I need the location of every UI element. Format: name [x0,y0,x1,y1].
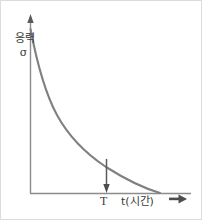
figure-canvas [1,1,202,220]
x-axis-arrowhead-icon [179,195,188,204]
t-marker-arrowhead-icon [103,184,109,193]
stress-relaxation-curve [31,29,161,193]
x-axis-arrow-shaft [169,198,180,201]
y-axis-arrowhead-icon [27,14,33,23]
stress-relaxation-figure: 응력 σ T t(시간) [0,0,202,220]
